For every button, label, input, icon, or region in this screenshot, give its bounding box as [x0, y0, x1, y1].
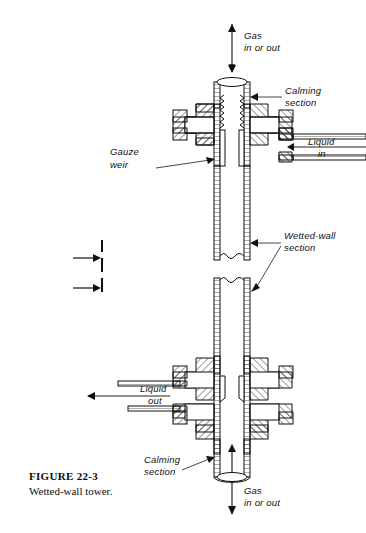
- gauze-line1: Gauze: [110, 146, 139, 157]
- diagram-canvas: Gas in or out Calming section Gauze weir…: [0, 0, 366, 533]
- calming-top-line2: section: [285, 97, 317, 108]
- gas-bottom-line2: in or out: [244, 497, 280, 508]
- figure-caption: Wetted-wall tower.: [29, 485, 113, 497]
- liquid-out-line1: Liquid: [140, 383, 167, 394]
- gauze-line2: weir: [110, 159, 129, 170]
- calming-bottom-line2: section: [144, 466, 176, 477]
- liquid-in-line2: in: [318, 148, 326, 159]
- figure-wetted-wall-tower: Gas in or out Calming section Gauze weir…: [0, 0, 366, 533]
- wetted-line2: section: [284, 242, 316, 253]
- label-calming-bottom: Calming section: [144, 454, 181, 477]
- gas-bottom-line1: Gas: [244, 485, 262, 496]
- calming-top-line1: Calming: [285, 85, 322, 96]
- figure-number: FIGURE 22-3: [29, 470, 98, 482]
- liquid-out-line2: out: [148, 395, 162, 406]
- page-background: [0, 0, 366, 533]
- label-calming-top: Calming section: [285, 85, 322, 108]
- gas-top-line1: Gas: [244, 30, 262, 41]
- calming-bottom-line1: Calming: [144, 454, 181, 465]
- liquid-in-line1: Liquid: [308, 136, 335, 147]
- gas-top-line2: in or out: [244, 42, 280, 53]
- wetted-line1: Wetted-wall: [284, 230, 336, 241]
